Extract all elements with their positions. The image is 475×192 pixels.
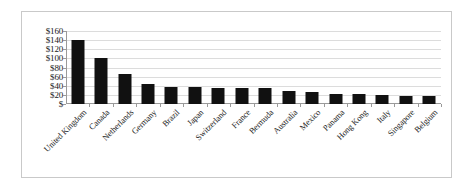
x-tick-mark: [160, 104, 161, 107]
bar[interactable]: [399, 96, 412, 104]
x-tick-label: Germany: [130, 108, 158, 136]
bar-slot: [277, 31, 300, 104]
y-tick-label: $20: [20, 91, 63, 100]
bars-layer: [66, 31, 441, 104]
x-tick-mark: [277, 104, 278, 107]
bar[interactable]: [71, 40, 84, 104]
x-tick-mark: [136, 104, 137, 107]
bar-slot: [418, 31, 441, 104]
bar[interactable]: [95, 58, 108, 104]
x-tick-mark: [113, 104, 114, 107]
y-tick-mark: [63, 58, 66, 59]
x-tick-mark: [394, 104, 395, 107]
x-tick-label: Mexico: [298, 108, 322, 132]
bar-slot: [324, 31, 347, 104]
x-tick-label: Italy: [376, 108, 393, 125]
x-tick-label: Belgium: [413, 108, 440, 135]
x-tick-mark: [418, 104, 419, 107]
bar[interactable]: [423, 96, 436, 104]
x-tick-mark: [183, 104, 184, 107]
bar-slot: [136, 31, 159, 104]
bar-slot: [230, 31, 253, 104]
y-axis: $160$140$120$100$80$60$40$20$: [20, 24, 63, 110]
x-tick-mark: [347, 104, 348, 107]
bar-slot: [254, 31, 277, 104]
bar[interactable]: [282, 91, 295, 104]
bar[interactable]: [329, 94, 342, 104]
x-tick-mark: [230, 104, 231, 107]
y-tick-mark: [63, 49, 66, 50]
bar[interactable]: [259, 88, 272, 104]
bar-slot: [113, 31, 136, 104]
x-tick-mark: [254, 104, 255, 107]
y-tick-mark: [63, 95, 66, 96]
y-tick-mark: [63, 31, 66, 32]
y-tick-label: $: [20, 100, 63, 109]
bar[interactable]: [142, 84, 155, 104]
bar[interactable]: [352, 94, 365, 104]
bar-slot: [371, 31, 394, 104]
bar[interactable]: [118, 74, 131, 104]
bar-slot: [207, 31, 230, 104]
x-tick-label: Bermuda: [248, 108, 276, 136]
bar[interactable]: [376, 95, 389, 104]
bar-slot: [160, 31, 183, 104]
x-tick-mark: [207, 104, 208, 107]
y-tick-mark: [63, 40, 66, 41]
bar-slot: [347, 31, 370, 104]
bar-slot: [300, 31, 323, 104]
x-axis: United KingdomCanadaNetherlandsGermanyBr…: [66, 108, 441, 170]
bar-chart-figure: $160$140$120$100$80$60$40$20$ United Kin…: [0, 0, 475, 192]
bar[interactable]: [165, 87, 178, 104]
x-tick-label: Brazil: [161, 108, 182, 129]
x-tick-label: Australia: [271, 108, 299, 136]
bar-slot: [183, 31, 206, 104]
bar[interactable]: [188, 87, 201, 104]
y-tick-mark: [63, 104, 66, 105]
bar[interactable]: [235, 88, 248, 104]
y-tick-mark: [63, 86, 66, 87]
bar[interactable]: [212, 88, 225, 104]
x-tick-mark: [441, 104, 442, 107]
x-tick-mark: [324, 104, 325, 107]
bar-slot: [66, 31, 89, 104]
bar-slot: [89, 31, 112, 104]
x-tick-mark: [371, 104, 372, 107]
bar[interactable]: [306, 92, 319, 104]
x-tick-mark: [89, 104, 90, 107]
x-tick-mark: [300, 104, 301, 107]
bar-slot: [394, 31, 417, 104]
y-tick-mark: [63, 68, 66, 69]
y-tick-mark: [63, 77, 66, 78]
